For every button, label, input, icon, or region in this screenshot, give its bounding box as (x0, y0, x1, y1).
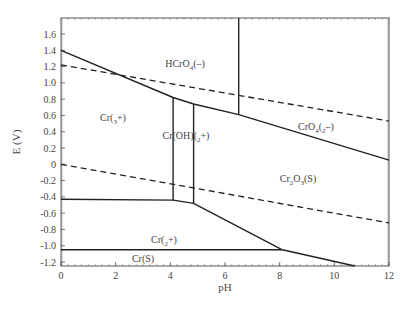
plot-frame (61, 18, 389, 266)
y-tick-label: -0.8 (40, 224, 56, 235)
y-tick-label: -0.6 (40, 208, 56, 219)
y-tick-label: -1.0 (40, 240, 56, 251)
x-tick-label: 10 (329, 270, 339, 281)
y-tick-label: 0.2 (44, 143, 57, 154)
pourbaix-chart: 024681012 1.61.41.21.00.80.60.40.20-0.2-… (0, 0, 410, 309)
y-tick-label: 0.6 (44, 110, 57, 121)
x-tick-label: 12 (384, 270, 394, 281)
y-tick-label: 1.4 (44, 45, 57, 56)
y-tick-label: -1.2 (40, 257, 56, 268)
x-tick-label: 6 (223, 270, 228, 281)
y-tick-label: 1.0 (44, 77, 57, 88)
y-tick-label: -0.2 (40, 175, 56, 186)
label-crs: Cr(S) (132, 253, 154, 265)
y-tick-label: 0.4 (44, 126, 57, 137)
x-axis-title: pH (218, 281, 232, 293)
x-tick-label: 2 (113, 270, 118, 281)
x-tick-labels: 024681012 (59, 270, 395, 281)
y-tick-label: -0.4 (40, 191, 56, 202)
x-tick-label: 8 (277, 270, 282, 281)
y-tick-label: 0.8 (44, 94, 57, 105)
x-tick-label: 4 (168, 270, 173, 281)
y-tick-label: 1.6 (44, 29, 57, 40)
x-tick-label: 0 (59, 270, 64, 281)
y-tick-label: 0 (51, 159, 56, 170)
y-tick-labels: 1.61.41.21.00.80.60.40.20-0.2-0.4-0.6-0.… (40, 29, 56, 268)
y-tick-label: 1.2 (44, 61, 57, 72)
y-axis-title: E (V) (10, 129, 23, 154)
